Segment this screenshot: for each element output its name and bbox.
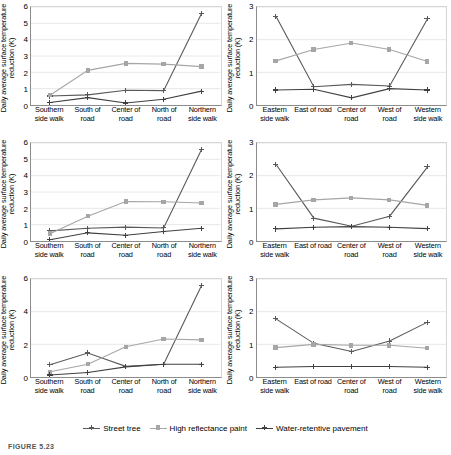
y-axis-title: Daily average surface temperature reduct… — [0, 264, 16, 396]
x-tick-label: Western side walk — [409, 378, 447, 402]
plot-area — [30, 278, 222, 378]
x-tick-label: Eastern side walk — [256, 106, 294, 130]
y-tick-label: 0 — [249, 102, 253, 111]
x-tick-label: North of road — [145, 106, 183, 130]
plot-area — [30, 6, 222, 106]
y-tick-label: 2 — [249, 171, 253, 180]
chart-grid: Daily average surface temperature reduct… — [0, 0, 451, 408]
x-tick-label: East of road — [294, 106, 332, 130]
y-axis-ticks: 0123 — [241, 278, 254, 378]
x-tick-label: Western side walk — [409, 242, 447, 266]
y-tick-label: 5 — [24, 154, 28, 163]
y-tick-label: 0 — [24, 102, 28, 111]
y-axis-ticks: 0123456 — [15, 6, 28, 106]
x-tick-label: Center of road — [107, 378, 145, 402]
chart-panel-bottom-left: Daily average surface temperature reduct… — [0, 272, 226, 408]
legend-label: High reflectance paint — [170, 424, 247, 433]
chart-panel-middle-right: Daily average surface temperature reduct… — [226, 136, 451, 272]
x-tick-label: North of road — [145, 242, 183, 266]
y-tick-label: 1 — [24, 85, 28, 94]
y-tick-label: 1 — [24, 221, 28, 230]
x-tick-label: South of road — [68, 242, 106, 266]
x-axis-labels: Eastern side walkEast of roadCenter of r… — [256, 242, 448, 266]
x-tick-label: West of road — [370, 242, 408, 266]
plot-area — [256, 6, 448, 106]
x-tick-label: Center of road — [332, 106, 370, 130]
x-axis-labels: Eastern side walkEast of roadCenter of r… — [256, 106, 448, 130]
series-line — [50, 14, 202, 96]
chart-svg — [31, 279, 221, 377]
y-axis-ticks: 0123 — [241, 142, 254, 242]
legend-item-water-retentive-pavement[interactable]: Water-retentive pavement — [256, 424, 368, 433]
y-tick-label: 0 — [249, 374, 253, 383]
y-tick-label: 1 — [249, 204, 253, 213]
x-tick-label: Southern side walk — [30, 242, 68, 266]
y-tick-label: 6 — [24, 274, 28, 283]
y-tick-label: 1 — [249, 340, 253, 349]
series-line — [50, 150, 202, 231]
x-tick-label: Center of road — [332, 242, 370, 266]
y-tick-label: 4 — [24, 171, 28, 180]
series-line — [50, 286, 202, 367]
chart-legend: Street treeHigh reflectance paintWater-r… — [0, 420, 451, 436]
y-tick-label: 3 — [24, 188, 28, 197]
y-tick-label: 3 — [249, 2, 253, 11]
y-axis-ticks: 0123 — [241, 6, 254, 106]
x-tick-label: Center of road — [107, 242, 145, 266]
x-tick-label: Center of road — [332, 378, 370, 402]
square-marker — [150, 424, 167, 433]
legend-label: Water-retentive pavement — [276, 424, 368, 433]
x-axis-labels: Southern side walkSouth of roadCenter of… — [30, 106, 222, 130]
y-tick-label: 3 — [249, 138, 253, 147]
x-tick-label: North of road — [145, 378, 183, 402]
x-tick-label: Southern side walk — [30, 378, 68, 402]
y-tick-label: 0 — [249, 238, 253, 247]
chart-panel-top-right: Daily average surface temperature reduct… — [226, 0, 451, 136]
cross-marker — [256, 424, 273, 433]
y-axis-title: Daily average surface temperature reduct… — [226, 264, 242, 396]
y-tick-label: 2 — [24, 204, 28, 213]
y-tick-label: 6 — [24, 2, 28, 11]
legend-item-street-tree[interactable]: Street tree — [83, 424, 140, 433]
x-tick-label: West of road — [370, 378, 408, 402]
x-tick-label: South of road — [68, 378, 106, 402]
chart-panel-bottom-right: Daily average surface temperature reduct… — [226, 272, 451, 408]
x-tick-label: South of road — [68, 106, 106, 130]
x-tick-label: East of road — [294, 242, 332, 266]
x-tick-label: Western side walk — [409, 106, 447, 130]
y-axis-title: Daily average surface temperature reduct… — [226, 128, 242, 260]
x-tick-label: Center of road — [107, 106, 145, 130]
x-tick-label: West of road — [370, 106, 408, 130]
x-axis-labels: Eastern side walkEast of roadCenter of r… — [256, 378, 448, 402]
plot-area — [256, 278, 448, 378]
plot-area — [30, 142, 222, 242]
chart-svg — [257, 7, 447, 105]
series-line — [275, 16, 427, 87]
y-tick-label: 0 — [24, 238, 28, 247]
y-tick-label: 2 — [24, 340, 28, 349]
y-tick-label: 3 — [24, 52, 28, 61]
x-tick-label: Eastern side walk — [256, 242, 294, 266]
x-tick-label: Southern side walk — [30, 106, 68, 130]
x-tick-label: Northern side walk — [183, 378, 221, 402]
y-tick-label: 2 — [249, 307, 253, 316]
y-axis-ticks: 0123456 — [15, 142, 28, 242]
y-tick-label: 6 — [24, 138, 28, 147]
y-axis-ticks: 0246 — [15, 278, 28, 378]
figure-caption: FIGURE 5.23 — [8, 443, 54, 450]
x-axis-labels: Southern side walkSouth of roadCenter of… — [30, 242, 222, 266]
y-axis-title: Daily average surface temperature reduct… — [0, 0, 16, 124]
y-tick-label: 2 — [249, 35, 253, 44]
y-tick-label: 5 — [24, 18, 28, 27]
chart-panel-top-left: Daily average surface temperature reduct… — [0, 0, 226, 136]
cross-marker — [83, 424, 100, 433]
x-tick-label: Northern side walk — [183, 106, 221, 130]
x-axis-labels: Southern side walkSouth of roadCenter of… — [30, 378, 222, 402]
chart-svg — [257, 279, 447, 377]
y-axis-title: Daily average surface temperature reduct… — [226, 0, 242, 124]
y-axis-title: Daily average surface temperature reduct… — [0, 128, 16, 260]
x-tick-label: East of road — [294, 378, 332, 402]
x-tick-label: Northern side walk — [183, 242, 221, 266]
legend-label: Street tree — [103, 424, 140, 433]
legend-item-high-reflectance-paint[interactable]: High reflectance paint — [150, 424, 247, 433]
